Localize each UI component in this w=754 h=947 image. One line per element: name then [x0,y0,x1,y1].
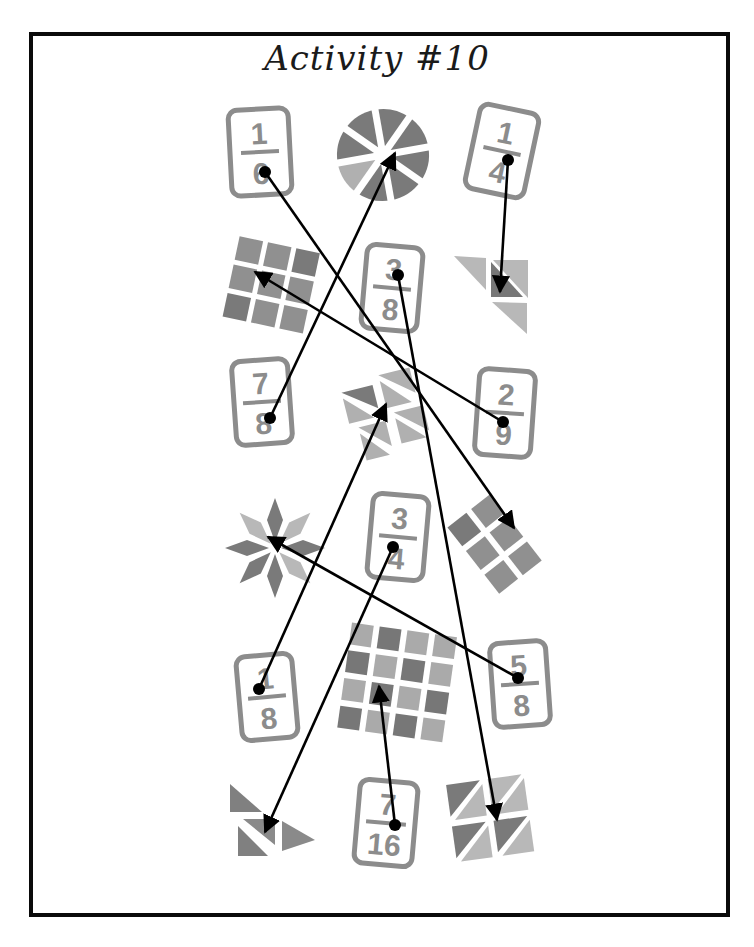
card-7-8[interactable]: 7 8 [231,358,293,446]
triangles-4[interactable] [454,256,528,334]
card-5-8[interactable]: 5 8 [489,640,551,728]
dot-3-4 [387,541,399,553]
card-1-4[interactable]: 1 4 [464,103,541,200]
numerator: 1 [250,117,268,151]
star-8[interactable] [225,498,325,598]
card-3-4[interactable]: 3 4 [366,493,429,582]
card-1-6[interactable]: 1 6 [228,107,292,196]
dot-7-16 [389,819,401,831]
dot-3-8 [392,269,404,281]
numerator: 3 [390,501,410,535]
denominator: 16 [366,827,402,863]
denominator: 8 [512,688,531,722]
pie-8-slices[interactable] [325,97,441,213]
denominator: 8 [380,292,400,326]
triangles-8-center[interactable] [340,366,433,462]
grid-6[interactable] [447,494,541,593]
triangles-bottom-left[interactable] [230,784,315,856]
card-7-16[interactable]: 7 16 [353,779,418,868]
card-1-8[interactable]: 1 8 [235,653,298,742]
numerator: 2 [497,378,516,412]
dot-1-8 [253,683,265,695]
denominator: 8 [259,701,279,735]
dot-1-4 [502,154,514,166]
numerator: 7 [251,367,270,401]
dot-7-8 [264,412,276,424]
dot-2-9 [497,416,509,428]
dot-5-8 [512,672,524,684]
card-3-8[interactable]: 3 8 [360,244,423,333]
grid-3x3[interactable] [223,236,320,333]
activity-canvas: 1 6 1 4 3 8 7 8 2 9 3 4 1 8 [0,0,754,947]
grid-4x4[interactable] [337,623,457,743]
dot-1-6 [259,166,271,178]
card-2-9[interactable]: 2 9 [474,368,536,458]
